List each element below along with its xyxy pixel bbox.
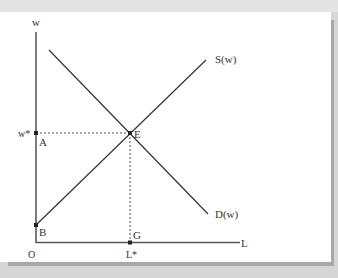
point-b-label: B [39, 226, 46, 238]
origin-label: O [28, 249, 35, 260]
point-a-label: A [39, 136, 47, 148]
point-a-marker [34, 131, 38, 135]
wage-star-label: w* [18, 128, 30, 139]
equilibrium-label: E [134, 128, 141, 140]
point-g-label: G [133, 229, 141, 241]
x-axis-label: L [241, 237, 248, 249]
y-axis-label: w [32, 16, 40, 28]
point-e-marker [128, 131, 132, 135]
point-g-marker [128, 241, 132, 245]
labor-star-label: L* [126, 249, 137, 260]
demand-label: D(w) [215, 208, 239, 221]
supply-curve [36, 60, 206, 225]
point-b-marker [34, 223, 38, 227]
supply-label: S(w) [215, 53, 237, 66]
labor-market-diagram: w L O S(w) D(w) E A B G w* L* [0, 0, 338, 278]
